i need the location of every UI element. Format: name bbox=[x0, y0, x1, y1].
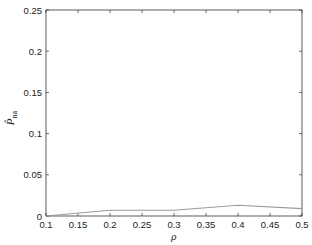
y-tick-label: 0 bbox=[37, 211, 42, 222]
x-tick-label: 0.2 bbox=[103, 219, 116, 230]
x-axis-label: ρ bbox=[170, 230, 176, 242]
x-tick-label: 0.15 bbox=[69, 219, 88, 230]
x-tick-label: 0.4 bbox=[231, 219, 244, 230]
x-tick-label: 0.25 bbox=[133, 219, 152, 230]
line-chart: 0.10.150.20.250.30.350.40.450.500.050.10… bbox=[0, 0, 312, 245]
plot-border bbox=[46, 10, 302, 216]
x-tick-label: 0.45 bbox=[261, 219, 280, 230]
x-tick-label: 0.5 bbox=[295, 219, 308, 230]
x-tick-label: 0.3 bbox=[167, 219, 180, 230]
y-axis-label-sub: na bbox=[10, 110, 19, 118]
svg-text:P̂na: P̂na bbox=[4, 110, 19, 126]
y-tick-label: 0.15 bbox=[24, 87, 43, 98]
x-tick-label: 0.35 bbox=[197, 219, 216, 230]
plot-area bbox=[46, 10, 302, 216]
y-tick-label: 0.05 bbox=[24, 169, 43, 180]
y-tick-label: 0.2 bbox=[29, 46, 42, 57]
y-tick-label: 0.25 bbox=[24, 5, 43, 16]
y-axis-label: P̂na bbox=[4, 110, 19, 126]
y-tick-label: 0.1 bbox=[29, 128, 42, 139]
